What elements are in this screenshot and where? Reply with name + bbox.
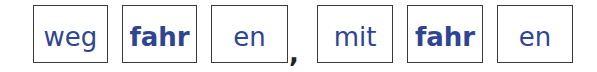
word-part-text: mit <box>334 22 377 52</box>
word-part-text: en <box>233 22 265 52</box>
word-part-box: en <box>211 5 288 63</box>
word-part-text: en <box>519 22 551 52</box>
word-part-box: fahr <box>122 5 197 63</box>
word-part-text: weg <box>44 22 98 52</box>
word-part-box: fahr <box>407 5 483 63</box>
word-part-box: en <box>497 5 573 63</box>
word-part-box: weg <box>33 5 108 63</box>
word-part-box: mit <box>317 5 393 63</box>
word-part-text: fahr <box>129 22 189 52</box>
comma-separator: , <box>289 38 299 68</box>
word-part-text: fahr <box>415 22 475 52</box>
